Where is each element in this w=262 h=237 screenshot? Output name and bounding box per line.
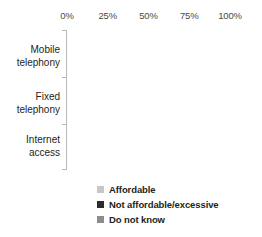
legend-item-affordable: Affordable <box>97 182 262 196</box>
legend-label-not-affordable: Not affordable/excessive <box>109 199 219 210</box>
category-label-line-1: Internet <box>0 134 60 147</box>
legend-label-affordable: Affordable <box>109 184 156 195</box>
x-axis-tick-label-100: 100% <box>218 10 242 21</box>
legend-swatch-icon-not-affordable <box>97 201 104 208</box>
category-label-mobile-telephony: Mobile telephony <box>0 44 60 69</box>
legend-item-do-not-know: Do not know <box>97 212 262 226</box>
x-axis-tick-label-25: 25% <box>99 10 117 21</box>
category-label-fixed-telephony: Fixed telephony <box>0 91 60 116</box>
stacked-bar-chart: 0% 25% 50% 75% 100% Mobile telephony Fix… <box>0 0 262 237</box>
x-axis-tick-label-0: 0% <box>60 10 73 21</box>
chart-legend: Affordable Not affordable/excessive Do n… <box>0 182 262 227</box>
legend-swatch-icon-do-not-know <box>97 216 104 223</box>
legend-swatch-icon-affordable <box>97 186 104 193</box>
category-label-line-2: telephony <box>0 104 60 117</box>
plot-area <box>67 30 230 170</box>
legend-item-not-affordable: Not affordable/excessive <box>97 197 262 211</box>
category-label-internet-access: Internet access <box>0 134 60 159</box>
x-axis-tick-label-75: 75% <box>180 10 198 21</box>
x-axis-tick-label-50: 50% <box>139 10 157 21</box>
category-label-line-2: access <box>0 147 60 160</box>
category-label-line-1: Mobile <box>0 44 60 57</box>
category-label-line-1: Fixed <box>0 91 60 104</box>
category-label-line-2: telephony <box>0 57 60 70</box>
legend-label-do-not-know: Do not know <box>109 214 165 225</box>
x-axis-tick-labels: 0% 25% 50% 75% 100% <box>67 10 230 24</box>
